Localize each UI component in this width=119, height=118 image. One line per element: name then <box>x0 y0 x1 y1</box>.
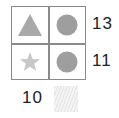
puzzle-grid <box>11 6 86 80</box>
cell-r0-c0 <box>12 7 48 43</box>
row-sum-0: 13 <box>92 14 113 34</box>
hidden-column-sum-placeholder <box>54 86 78 112</box>
cell-r0-c1 <box>49 7 85 43</box>
circle-icon <box>56 51 78 73</box>
triangle-icon <box>17 13 43 37</box>
column-sum-0: 10 <box>22 88 43 108</box>
cell-r1-c1 <box>49 44 85 80</box>
cell-r1-c0 <box>12 44 48 80</box>
circle-icon <box>56 14 78 36</box>
row-sum-1: 11 <box>92 51 112 71</box>
star-icon <box>19 51 41 73</box>
